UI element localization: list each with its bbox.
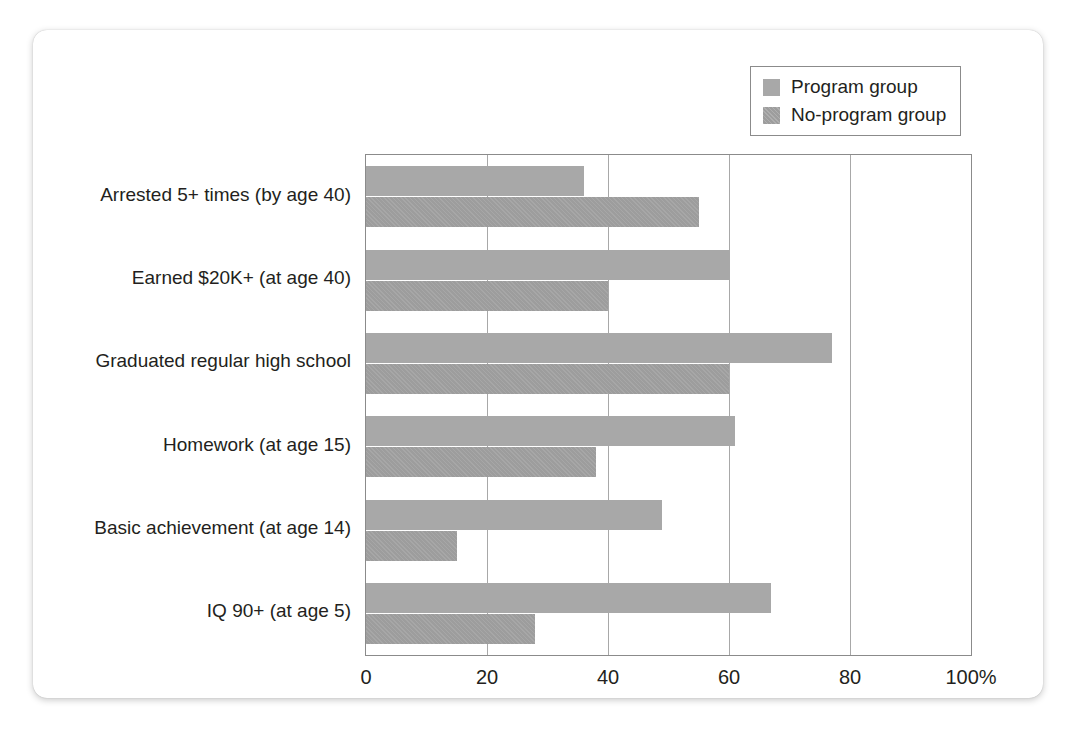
legend-label-program: Program group [791,76,918,98]
chart-legend: Program group No-program group [750,66,961,136]
bar-group [366,500,971,561]
bar [366,416,735,446]
x-tick-label-60: 60 [718,666,740,689]
y-axis-label: Homework (at age 15) [31,434,351,456]
bar [366,364,729,394]
x-tick-label-0: 0 [360,666,371,689]
bar [366,447,596,477]
bar [366,531,457,561]
y-axis-category-labels: Arrested 5+ times (by age 40)Earned $20K… [33,154,351,654]
bar [366,166,584,196]
y-axis-label: Earned $20K+ (at age 40) [31,267,351,289]
x-axis-tick-labels: 020406080100% [365,656,972,696]
bar [366,250,729,280]
bar [366,614,535,644]
legend-item-no-program: No-program group [763,104,946,126]
grouped-bar-chart: Program group No-program group Arrested … [33,30,1043,698]
legend-swatch-program-icon [763,79,780,96]
bar-group [366,416,971,477]
x-tick-label-80: 80 [839,666,861,689]
x-tick-label-20: 20 [476,666,498,689]
legend-swatch-no-program-icon [763,107,780,124]
bar [366,500,662,530]
bar-group [366,333,971,394]
y-axis-label: Basic achievement (at age 14) [31,517,351,539]
bar [366,583,771,613]
bar-group [366,583,971,644]
bar-group [366,166,971,227]
bar [366,281,608,311]
legend-label-no-program: No-program group [791,104,946,126]
legend-item-program: Program group [763,76,946,98]
bar [366,333,832,363]
figure-card: Program group No-program group Arrested … [33,30,1043,698]
y-axis-label: Arrested 5+ times (by age 40) [31,184,351,206]
y-axis-label: Graduated regular high school [31,350,351,372]
plot-area [365,154,972,656]
bar-group [366,250,971,311]
y-axis-label: IQ 90+ (at age 5) [31,600,351,622]
bars-layer [366,155,971,655]
x-tick-label-100: 100% [945,666,996,689]
x-tick-label-40: 40 [597,666,619,689]
bar [366,197,699,227]
